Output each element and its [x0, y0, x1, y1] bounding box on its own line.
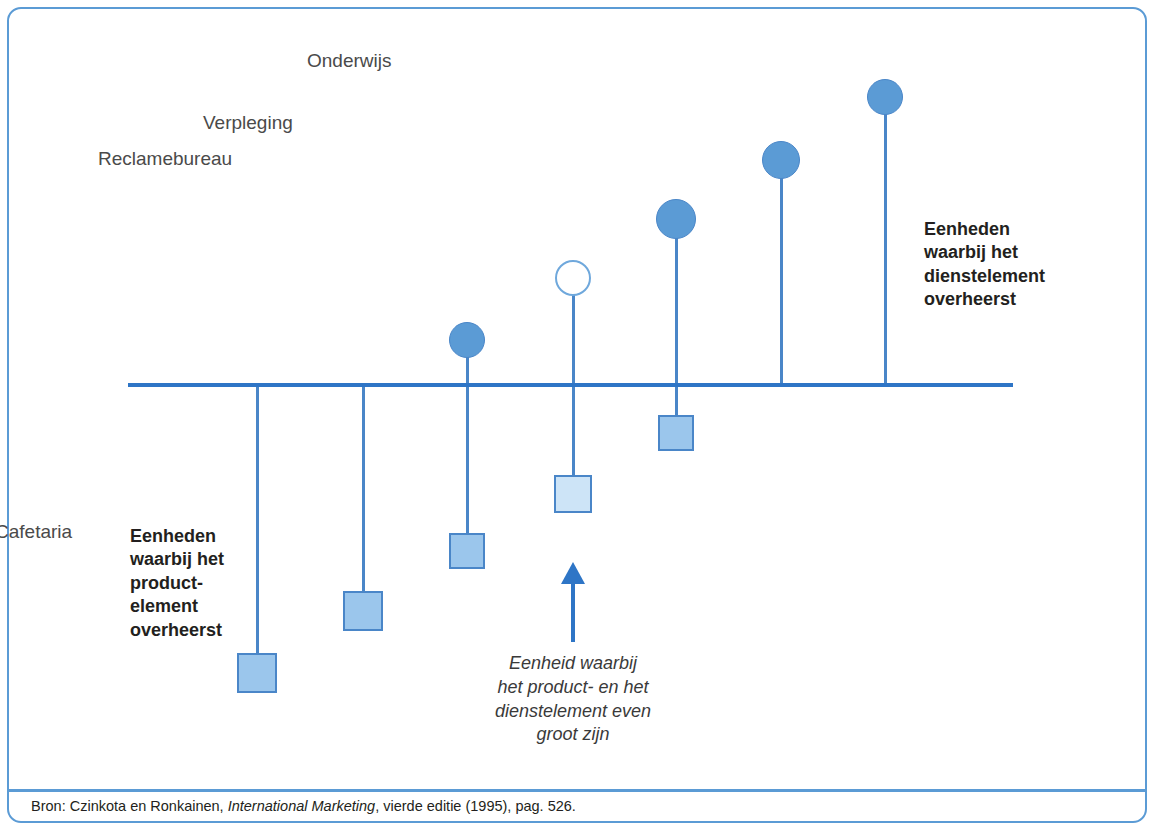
item-label-cafetaria: Cafetaria — [0, 521, 72, 543]
product-marker-zout[interactable] — [237, 653, 277, 693]
stem-onderwijs — [884, 97, 887, 385]
stem-hondenvoer — [362, 385, 365, 591]
service-marker-onderwijs[interactable] — [867, 79, 903, 115]
product-marker-hondenvoer[interactable] — [343, 591, 383, 631]
service-marker-reclamebureau[interactable] — [656, 199, 696, 239]
product-marker-reclamebureau[interactable] — [658, 415, 694, 451]
source-prefix: Bron: Czinkota en Ronkainen, — [31, 798, 228, 814]
stem-cafetaria — [572, 278, 575, 475]
figure-page: ZoutHondenvoerAutoCafetariaReclamebureau… — [0, 0, 1156, 837]
service-marker-auto[interactable] — [449, 322, 485, 358]
source-caption: Bron: Czinkota en Ronkainen, Internation… — [31, 798, 576, 814]
stem-zout — [256, 385, 259, 653]
note-product-dominant: Eenheden waarbij het product- element ov… — [130, 525, 224, 642]
item-label-verpleging: Verpleging — [203, 112, 293, 134]
source-title: International Marketing — [228, 798, 376, 814]
service-marker-verpleging[interactable] — [762, 141, 800, 179]
product-marker-cafetaria[interactable] — [554, 475, 592, 513]
source-divider — [9, 789, 1145, 792]
stem-auto — [466, 340, 469, 533]
item-label-reclamebureau: Reclamebureau — [98, 148, 232, 170]
up-arrow-icon — [556, 560, 590, 642]
source-suffix: , vierde editie (1995), pag. 526. — [375, 798, 576, 814]
item-label-onderwijs: Onderwijs — [307, 50, 391, 72]
note-service-dominant: Eenheden waarbij het dienstelement overh… — [924, 218, 1045, 312]
product-marker-auto[interactable] — [449, 533, 485, 569]
service-marker-cafetaria[interactable] — [555, 260, 591, 296]
stem-verpleging — [780, 160, 783, 385]
continuum-axis — [128, 383, 1013, 387]
note-equal-balance: Eenheid waarbij het product- en het dien… — [445, 652, 701, 747]
